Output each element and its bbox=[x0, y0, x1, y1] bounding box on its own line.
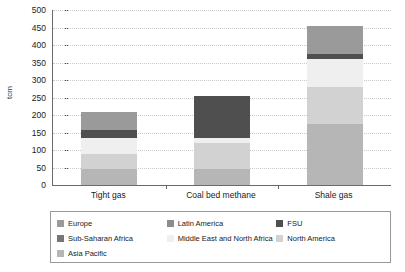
y-tick-label: 300 bbox=[16, 76, 46, 84]
bar-segment[interactable] bbox=[194, 96, 250, 139]
x-category-label: Coal bed methane bbox=[165, 190, 278, 200]
legend-swatch-icon bbox=[57, 250, 64, 257]
legend-item[interactable]: Sub-Saharan Africa bbox=[57, 231, 165, 245]
legend-label: Middle East and North Africa bbox=[178, 234, 273, 243]
legend-label: Europe bbox=[68, 219, 92, 228]
stacked-bar[interactable] bbox=[307, 26, 363, 185]
y-tick-label: 0 bbox=[16, 181, 46, 189]
legend-label: Sub-Saharan Africa bbox=[68, 234, 133, 243]
legend-item[interactable]: Europe bbox=[57, 216, 165, 230]
legend-swatch-icon bbox=[276, 220, 283, 227]
legend-item[interactable]: Middle East and North Africa bbox=[167, 231, 275, 245]
y-tick-label: 250 bbox=[16, 94, 46, 102]
bar-column bbox=[166, 10, 279, 185]
stacked-bar-chart: tcm 500450400350300250200150100500 Tight… bbox=[0, 0, 405, 272]
y-tick-label: 400 bbox=[16, 41, 46, 49]
legend-swatch-icon bbox=[167, 235, 174, 242]
y-tick-label: 450 bbox=[16, 24, 46, 32]
legend-label: FSU bbox=[287, 219, 302, 228]
legend-label: North America bbox=[287, 234, 335, 243]
y-axis-tick-labels: 500450400350300250200150100500 bbox=[16, 10, 46, 185]
legend-item[interactable]: Latin America bbox=[167, 216, 275, 230]
plot-area-wrapper: tcm 500450400350300250200150100500 Tight… bbox=[0, 0, 405, 205]
stacked-bar[interactable] bbox=[194, 96, 250, 185]
y-tick-label: 500 bbox=[16, 6, 46, 14]
stacked-bar[interactable] bbox=[81, 112, 137, 185]
bar-segment[interactable] bbox=[81, 130, 137, 138]
bar-segment[interactable] bbox=[194, 169, 250, 185]
legend-swatch-icon bbox=[57, 235, 64, 242]
bar-segment[interactable] bbox=[194, 143, 250, 169]
legend-swatch-icon bbox=[276, 235, 283, 242]
legend-item[interactable]: FSU bbox=[276, 216, 384, 230]
legend-label: Asia Pacific bbox=[68, 249, 107, 258]
x-tick-mark bbox=[278, 185, 279, 189]
legend-label: Latin America bbox=[178, 219, 223, 228]
x-tick-mark bbox=[166, 185, 167, 189]
x-axis-category-labels: Tight gasCoal bed methaneShale gas bbox=[52, 190, 390, 200]
bar-column bbox=[53, 10, 166, 185]
bar-segment[interactable] bbox=[307, 26, 363, 53]
y-tick-label: 350 bbox=[16, 59, 46, 67]
bar-group bbox=[53, 10, 391, 185]
y-tick-label: 100 bbox=[16, 146, 46, 154]
plot-area bbox=[52, 10, 391, 186]
legend-item[interactable]: Asia Pacific bbox=[57, 246, 165, 260]
bar-segment[interactable] bbox=[307, 124, 363, 185]
bar-segment[interactable] bbox=[307, 87, 363, 124]
x-category-label: Shale gas bbox=[277, 190, 390, 200]
y-axis-title: tcm bbox=[5, 86, 14, 100]
bar-segment[interactable] bbox=[81, 169, 137, 185]
bar-segment[interactable] bbox=[307, 59, 363, 87]
bar-segment[interactable] bbox=[81, 154, 137, 168]
chart-legend: EuropeLatin AmericaFSUSub-Saharan Africa… bbox=[50, 211, 391, 263]
legend-item[interactable]: North America bbox=[276, 231, 384, 245]
y-tick-label: 200 bbox=[16, 111, 46, 119]
legend-swatch-icon bbox=[57, 220, 64, 227]
x-category-label: Tight gas bbox=[52, 190, 165, 200]
bar-column bbox=[278, 10, 391, 185]
y-tick-label: 150 bbox=[16, 129, 46, 137]
legend-swatch-icon bbox=[167, 220, 174, 227]
bar-segment[interactable] bbox=[81, 138, 137, 154]
y-tick-label: 50 bbox=[16, 164, 46, 172]
bar-segment[interactable] bbox=[81, 112, 137, 131]
